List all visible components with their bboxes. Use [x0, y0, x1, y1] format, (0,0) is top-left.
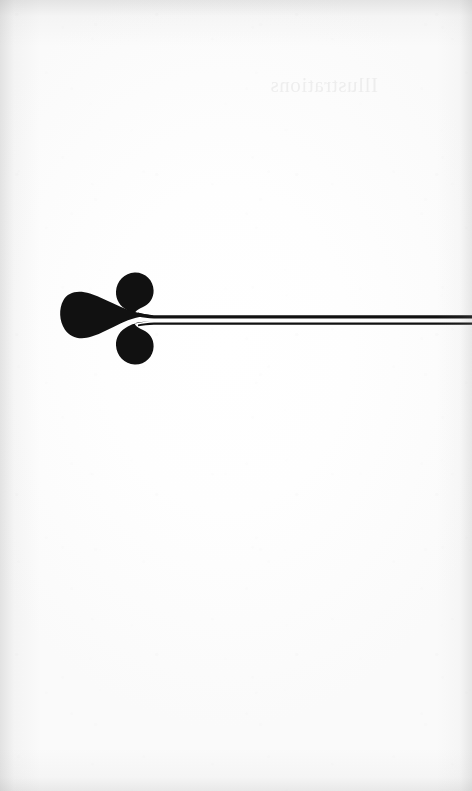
scanned-page: Illustrations — [0, 0, 472, 791]
ornament-block — [0, 262, 472, 372]
ornament-rule-upper — [138, 313, 472, 319]
fleuron-ornament-icon — [0, 262, 472, 372]
ornament-rule-lower — [138, 323, 472, 327]
paper-background — [0, 0, 472, 791]
showthrough-text: Illustrations — [262, 70, 378, 102]
fleuron-lower-lobe — [116, 322, 154, 365]
